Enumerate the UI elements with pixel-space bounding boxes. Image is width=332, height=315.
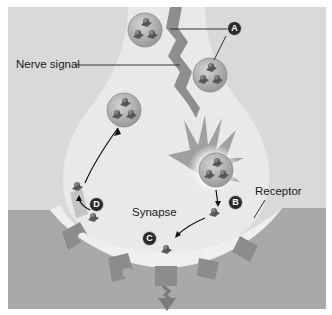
synapse-label: Synapse: [132, 207, 177, 219]
vesicle-1: [128, 13, 162, 47]
marker-d: D: [89, 197, 104, 212]
marker-c: C: [142, 231, 157, 246]
vesicle-fusing: [199, 153, 233, 187]
marker-a: A: [227, 21, 242, 36]
diagram-canvas: [0, 0, 332, 315]
marker-b: B: [228, 195, 243, 210]
receptor-label: Receptor: [255, 186, 302, 198]
vesicle-3: [107, 93, 141, 127]
nerve-signal-label: Nerve signal: [16, 59, 80, 71]
vesicle-2: [193, 58, 227, 92]
receptor-3: [155, 266, 177, 286]
